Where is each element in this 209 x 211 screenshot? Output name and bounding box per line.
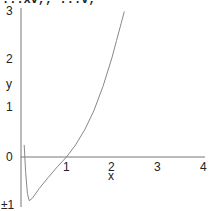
chart-svg: [0, 0, 209, 211]
x-tick-1: 1: [63, 161, 70, 173]
y-tick-0: 0: [6, 151, 13, 163]
plot-area: ...xv,, ...v, 3 2 1 0 ±1 y 1 2 3 4 x: [0, 0, 209, 211]
y-tick-neg1: ±1: [1, 199, 14, 211]
y-tick-1: 1: [6, 101, 13, 113]
x-tick-4: 4: [200, 161, 207, 173]
y-tick-3: 3: [6, 5, 13, 17]
y-axis-label: y: [6, 78, 12, 90]
x-axis-label: x: [108, 170, 114, 182]
y-tick-2: 2: [6, 53, 13, 65]
x-tick-3: 3: [154, 161, 161, 173]
